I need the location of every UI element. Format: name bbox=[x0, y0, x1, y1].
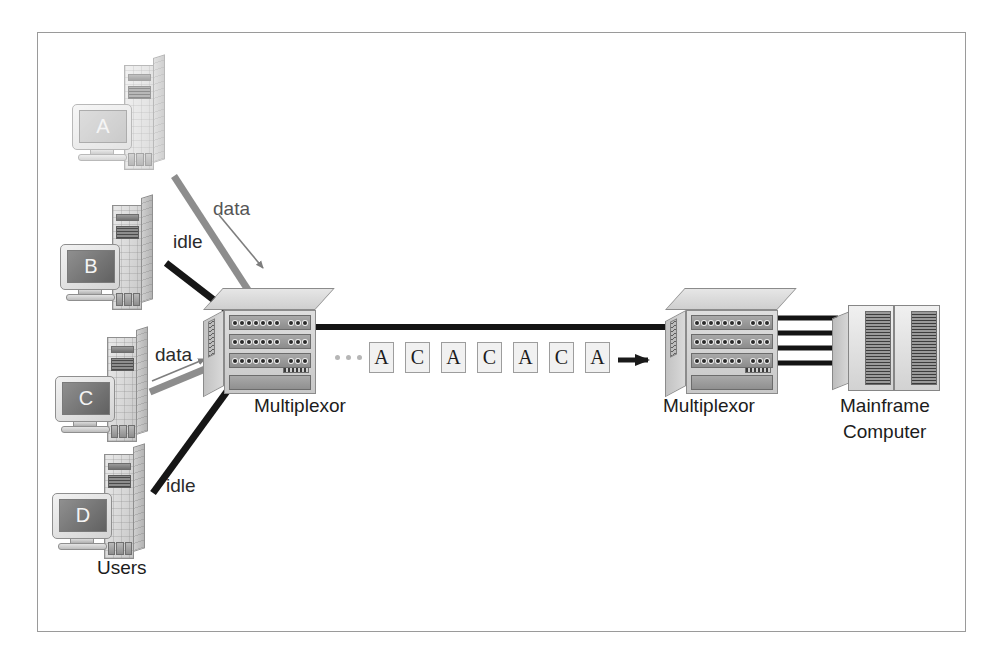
packet-cell: C bbox=[549, 342, 574, 373]
port-dot bbox=[296, 340, 300, 344]
mainframe-grill bbox=[865, 311, 891, 385]
packet-cell: C bbox=[477, 342, 502, 373]
monitor-screen-label: D bbox=[59, 499, 107, 532]
port-dot bbox=[702, 340, 706, 344]
mux-top-face bbox=[203, 288, 335, 310]
port-dot bbox=[275, 321, 279, 325]
mux-indicator-strip bbox=[745, 367, 771, 373]
mux-vent-icon bbox=[208, 318, 215, 358]
mux-top-face bbox=[665, 288, 797, 310]
label-multiplexor-left: Multiplexor bbox=[254, 395, 346, 417]
port-dot bbox=[695, 340, 699, 344]
port-dot bbox=[233, 340, 237, 344]
packet-stream: A C A C A C A bbox=[369, 342, 610, 373]
monitor-base bbox=[58, 543, 107, 550]
port-dot bbox=[737, 359, 741, 363]
port-dot bbox=[765, 321, 769, 325]
drive-panel bbox=[128, 86, 151, 99]
port-dot bbox=[303, 321, 307, 325]
drive-slot bbox=[116, 214, 139, 221]
mux-port-row bbox=[691, 353, 773, 368]
port-group-right bbox=[751, 359, 769, 363]
monitor-base bbox=[66, 294, 115, 301]
port-dot bbox=[709, 321, 713, 325]
port-group-left bbox=[233, 359, 279, 363]
port-dot bbox=[716, 359, 720, 363]
port-group-right bbox=[289, 340, 307, 344]
port-dot bbox=[233, 321, 237, 325]
stream-ellipsis bbox=[335, 355, 362, 360]
port-dot bbox=[758, 321, 762, 325]
port-group-right bbox=[289, 359, 307, 363]
monitor-c: C bbox=[55, 376, 117, 432]
label-multiplexor-right: Multiplexor bbox=[663, 395, 755, 417]
port-dot bbox=[268, 359, 272, 363]
bay bbox=[116, 542, 123, 555]
mux-port-row bbox=[691, 315, 773, 330]
drive-slot bbox=[128, 74, 151, 81]
ellipsis-dot bbox=[346, 355, 351, 360]
port-dot bbox=[695, 359, 699, 363]
port-dot bbox=[730, 321, 734, 325]
port-dot bbox=[240, 359, 244, 363]
port-group-left bbox=[233, 340, 279, 344]
port-dot bbox=[723, 321, 727, 325]
mux-base-panel bbox=[229, 375, 311, 390]
port-dot bbox=[765, 359, 769, 363]
port-dot bbox=[751, 359, 755, 363]
monitor-screen-label: B bbox=[67, 250, 115, 283]
link-label-data-a: data bbox=[213, 198, 250, 220]
port-dot bbox=[233, 359, 237, 363]
port-dot bbox=[289, 321, 293, 325]
port-group-right bbox=[289, 321, 307, 325]
tower-side-panel bbox=[153, 54, 165, 163]
port-dot bbox=[765, 340, 769, 344]
tower-side-panel bbox=[141, 194, 153, 303]
port-dot bbox=[268, 340, 272, 344]
monitor-b: B bbox=[60, 244, 122, 300]
monitor-screen-label: A bbox=[79, 110, 127, 143]
mux-front-face bbox=[686, 310, 778, 394]
tower-side-panel bbox=[136, 326, 148, 435]
mux-front-face bbox=[224, 310, 316, 394]
port-group-left bbox=[233, 321, 279, 325]
diagram-canvas: A B bbox=[0, 0, 1008, 664]
port-dot bbox=[303, 359, 307, 363]
port-dot bbox=[702, 359, 706, 363]
mux-port-row bbox=[691, 334, 773, 349]
port-dot bbox=[275, 359, 279, 363]
port-dot bbox=[303, 340, 307, 344]
link-label-data-c: data bbox=[155, 344, 192, 366]
monitor-screen-label: C bbox=[62, 382, 110, 415]
monitor-bezel: D bbox=[52, 493, 112, 539]
port-dot bbox=[261, 340, 265, 344]
port-dot bbox=[723, 340, 727, 344]
port-dot bbox=[716, 340, 720, 344]
drive-panel bbox=[116, 226, 139, 239]
port-group-right bbox=[751, 321, 769, 325]
bay bbox=[133, 293, 140, 306]
port-dot bbox=[268, 321, 272, 325]
diagram-frame bbox=[37, 32, 966, 632]
bay bbox=[128, 425, 135, 438]
mux-vent-icon bbox=[670, 318, 677, 358]
port-dot bbox=[702, 321, 706, 325]
port-dot bbox=[247, 359, 251, 363]
port-dot bbox=[247, 340, 251, 344]
bay bbox=[124, 293, 131, 306]
port-dot bbox=[254, 340, 258, 344]
port-dot bbox=[296, 321, 300, 325]
monitor-base bbox=[78, 154, 127, 161]
mux-indicator-strip bbox=[283, 367, 309, 373]
port-group-left bbox=[695, 321, 741, 325]
drive-panel bbox=[108, 475, 131, 488]
port-dot bbox=[275, 340, 279, 344]
port-dot bbox=[254, 359, 258, 363]
port-group-left bbox=[695, 340, 741, 344]
port-dot bbox=[296, 359, 300, 363]
bay bbox=[145, 153, 152, 166]
port-dot bbox=[709, 359, 713, 363]
monitor-bezel: C bbox=[55, 376, 115, 422]
packet-cell: C bbox=[405, 342, 430, 373]
monitor-a: A bbox=[72, 104, 134, 160]
